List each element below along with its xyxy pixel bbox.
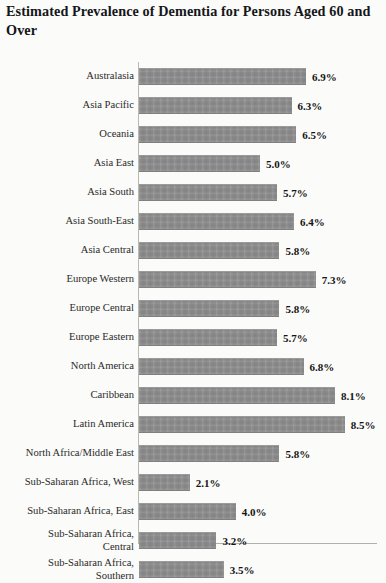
- bar-and-value: 8.1%: [139, 387, 366, 404]
- bar-and-value: 5.0%: [139, 155, 291, 172]
- bar-value-label: 3.5%: [230, 564, 255, 576]
- bar-and-value: 5.8%: [139, 300, 310, 317]
- bar-value-label: 3.2%: [222, 535, 247, 547]
- bar: [139, 561, 224, 578]
- bar-value-label: 2.1%: [196, 477, 221, 489]
- bar-row: Oceania6.5%: [0, 120, 386, 149]
- category-label: Asia Pacific: [6, 91, 134, 120]
- category-label: Oceania: [6, 120, 134, 149]
- category-label: North America: [6, 352, 134, 381]
- bar: [139, 97, 292, 114]
- bar-value-label: 7.3%: [322, 274, 347, 286]
- bar-rows: Australasia6.9%Asia Pacific6.3%Oceania6.…: [0, 62, 386, 583]
- bar-value-label: 6.8%: [310, 361, 335, 373]
- category-label: Asia Central: [6, 236, 134, 265]
- bar: [139, 213, 294, 230]
- bar: [139, 126, 296, 143]
- bar-value-label: 6.9%: [312, 71, 337, 83]
- bar-and-value: 3.2%: [139, 532, 247, 549]
- bar: [139, 329, 277, 346]
- bar-and-value: 4.0%: [139, 503, 267, 520]
- bar-value-label: 5.8%: [285, 303, 310, 315]
- chart-plot-area: Australasia6.9%Asia Pacific6.3%Oceania6.…: [0, 62, 386, 549]
- bar: [139, 300, 279, 317]
- bar-row: Sub-Saharan Africa, Southern3.5%: [0, 555, 386, 583]
- bar-row: Sub-Saharan Africa, East4.0%: [0, 497, 386, 526]
- bar: [139, 184, 277, 201]
- bar-and-value: 6.3%: [139, 97, 322, 114]
- bar-row: Europe Eastern5.7%: [0, 323, 386, 352]
- bar: [139, 532, 216, 549]
- bar-row: Latin America8.5%: [0, 410, 386, 439]
- bar-row: Caribbean8.1%: [0, 381, 386, 410]
- category-label: Sub-Saharan Africa, East: [6, 497, 134, 526]
- bar-and-value: 6.9%: [139, 68, 337, 85]
- category-label: Europe Western: [6, 265, 134, 294]
- bar-and-value: 5.7%: [139, 184, 308, 201]
- category-label: Europe Central: [6, 294, 134, 323]
- bar-value-label: 5.8%: [285, 245, 310, 257]
- bar-value-label: 5.7%: [283, 187, 308, 199]
- bar-value-label: 5.0%: [266, 158, 291, 170]
- bar: [139, 155, 260, 172]
- category-label: Latin America: [6, 410, 134, 439]
- bar-row: Asia South5.7%: [0, 178, 386, 207]
- bar-and-value: 7.3%: [139, 271, 346, 288]
- bar: [139, 242, 279, 259]
- category-label: Sub-Saharan Africa, Central: [6, 526, 134, 555]
- bar: [139, 271, 316, 288]
- bar-value-label: 6.4%: [300, 216, 325, 228]
- bar: [139, 68, 306, 85]
- bar-value-label: 8.5%: [351, 419, 376, 431]
- bar-value-label: 6.5%: [302, 129, 327, 141]
- category-label: North Africa/Middle East: [6, 439, 134, 468]
- bar-row: Asia South-East6.4%: [0, 207, 386, 236]
- bar-and-value: 5.8%: [139, 242, 310, 259]
- bar: [139, 445, 279, 462]
- bar-row: Europe Western7.3%: [0, 265, 386, 294]
- bar-value-label: 4.0%: [242, 506, 267, 518]
- category-label: Asia East: [6, 149, 134, 178]
- bar-and-value: 8.5%: [139, 416, 375, 433]
- bar-value-label: 6.3%: [298, 100, 323, 112]
- bar: [139, 387, 335, 404]
- bar-value-label: 8.1%: [341, 390, 366, 402]
- bar: [139, 474, 190, 491]
- bar-row: Asia Pacific6.3%: [0, 91, 386, 120]
- category-label: Asia South-East: [6, 207, 134, 236]
- bar-row: Asia East5.0%: [0, 149, 386, 178]
- bar: [139, 503, 236, 520]
- bar-and-value: 6.8%: [139, 358, 334, 375]
- bar-value-label: 5.7%: [283, 332, 308, 344]
- category-label: Europe Eastern: [6, 323, 134, 352]
- bar-and-value: 5.8%: [139, 445, 310, 462]
- bar-and-value: 5.7%: [139, 329, 308, 346]
- chart-title: Estimated Prevalence of Dementia for Per…: [6, 2, 378, 40]
- bar-value-label: 5.8%: [285, 448, 310, 460]
- bar-and-value: 2.1%: [139, 474, 221, 491]
- category-label: Sub-Saharan Africa, West: [6, 468, 134, 497]
- bar-row: Sub-Saharan Africa, Central3.2%: [0, 526, 386, 555]
- bar-row: Sub-Saharan Africa, West2.1%: [0, 468, 386, 497]
- bar-and-value: 3.5%: [139, 561, 254, 578]
- bar-row: Europe Central5.8%: [0, 294, 386, 323]
- bar-row: Australasia6.9%: [0, 62, 386, 91]
- category-label: Australasia: [6, 62, 134, 91]
- category-label: Asia South: [6, 178, 134, 207]
- bar-row: Asia Central5.8%: [0, 236, 386, 265]
- category-label: Sub-Saharan Africa, Southern: [6, 555, 134, 583]
- bar: [139, 416, 345, 433]
- bar: [139, 358, 304, 375]
- bar-row: North America6.8%: [0, 352, 386, 381]
- bar-and-value: 6.4%: [139, 213, 325, 230]
- bar-row: North Africa/Middle East5.8%: [0, 439, 386, 468]
- bar-and-value: 6.5%: [139, 126, 327, 143]
- category-label: Caribbean: [6, 381, 134, 410]
